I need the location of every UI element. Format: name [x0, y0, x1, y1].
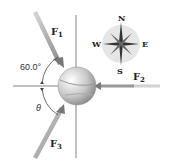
- force-f2-arrow: [94, 82, 160, 90]
- force-f1-arrow: [33, 11, 64, 68]
- ball-object: [58, 67, 96, 105]
- label-f2: F2: [133, 71, 145, 84]
- label-f1: F1: [51, 26, 63, 39]
- compass-w: W: [91, 39, 102, 49]
- angle-theta-label: θ: [36, 103, 41, 113]
- angle-60-label: 60.0°: [20, 62, 42, 72]
- compass-rose-icon: N S E W: [91, 13, 148, 76]
- force-diagram: N S E W F1 F2 F3 60.0° θ: [0, 0, 171, 166]
- label-f3: F3: [50, 138, 62, 151]
- compass-e: E: [142, 39, 148, 49]
- compass-n: N: [118, 13, 125, 23]
- compass-s: S: [117, 66, 123, 76]
